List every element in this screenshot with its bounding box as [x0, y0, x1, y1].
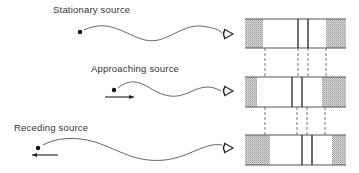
shaded-band-left [245, 77, 257, 107]
row-receding [32, 135, 346, 165]
row-stationary [78, 19, 346, 48]
source-dot-icon [36, 146, 40, 150]
shaded-band-right [322, 77, 346, 107]
light-wave [43, 138, 222, 160]
spectrum-stationary [245, 19, 346, 48]
light-wave [84, 26, 222, 41]
shaded-band-left [245, 135, 270, 165]
observer-eye-icon [224, 29, 234, 39]
shaded-band-left [245, 19, 263, 48]
doppler-diagram [0, 0, 359, 173]
spectrum-approaching [245, 77, 346, 107]
observer-eye-icon [224, 86, 234, 96]
motion-arrow-icon [105, 95, 134, 99]
observer-eye-icon [224, 143, 234, 153]
shaded-band-right [326, 19, 346, 48]
shaded-band-right [332, 135, 346, 165]
light-wave [118, 82, 221, 96]
spectrum-receding [245, 135, 346, 165]
source-dot-icon [112, 88, 116, 92]
motion-arrow-icon [32, 153, 58, 157]
source-dot-icon [78, 30, 82, 34]
row-approaching [105, 77, 346, 107]
